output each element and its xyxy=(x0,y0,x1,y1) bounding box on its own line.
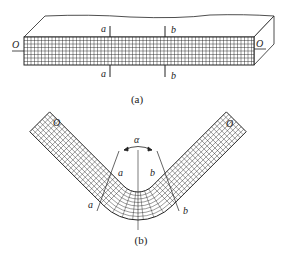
figure-b xyxy=(30,112,246,230)
figure-a xyxy=(12,15,274,77)
caption-b: (b) xyxy=(135,234,148,247)
label-b-angle: α xyxy=(134,134,140,145)
label-a-axis-right: O xyxy=(256,38,263,49)
label-a-section-b-top: b xyxy=(171,24,176,35)
label-b-section-a-inner: a xyxy=(118,167,123,178)
label-a-section-a-top: a xyxy=(101,23,106,34)
angle-arrow-left xyxy=(124,147,128,151)
label-b-axis-left: O xyxy=(53,117,60,128)
label-b-axis-right: O xyxy=(226,118,233,129)
angle-arrow-right xyxy=(148,147,152,151)
label-b-section-a-outer: a xyxy=(88,199,93,210)
label-a-section-a-bottom: a xyxy=(101,68,106,79)
caption-a: (a) xyxy=(131,93,144,106)
beam-bending-diagram: O O a a b b (a) α O O a b a b (b) xyxy=(0,0,287,264)
label-b-section-b-inner: b xyxy=(150,167,155,178)
beam-top-face xyxy=(24,15,274,37)
label-a-section-b-bottom: b xyxy=(171,70,176,81)
label-a-axis-left: O xyxy=(12,39,19,50)
label-b-section-b-outer: b xyxy=(183,205,188,216)
